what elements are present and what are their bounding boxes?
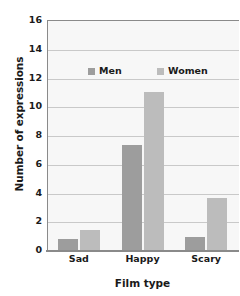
y-axis-tick-label: 12: [20, 73, 42, 83]
x-axis-title: Film type: [47, 277, 238, 289]
legend-label-men: Men: [99, 66, 122, 76]
x-axis-line: [46, 250, 239, 252]
y-axis-tick-label: 6: [20, 159, 42, 169]
chart-legend: Men Women: [47, 64, 238, 78]
bar-men-happy: [122, 145, 142, 250]
x-axis-tick-label: Sad: [69, 254, 89, 264]
y-axis-tick-label: 10: [20, 102, 42, 112]
legend-label-women: Women: [168, 66, 208, 76]
y-axis-tick-labels: 0246810121416: [20, 20, 42, 250]
legend-entry-men: Men: [88, 64, 122, 78]
bar-men-scary: [185, 237, 205, 250]
x-axis-tick-label: Scary: [191, 254, 221, 264]
bar-women-scary: [207, 198, 227, 250]
y-axis-tick-label: 2: [20, 217, 42, 227]
y-axis-tick-label: 4: [20, 188, 42, 198]
y-axis-tick-label: 0: [20, 245, 42, 255]
legend-swatch-men-icon: [88, 68, 95, 75]
bar-women-happy: [144, 92, 164, 250]
legend-swatch-women-icon: [157, 68, 164, 75]
x-axis-tick-labels: SadHappyScary: [47, 254, 238, 268]
y-axis-tick-label: 16: [20, 15, 42, 25]
bar-chart: Number of expressions 0246810121416 Men …: [0, 0, 240, 296]
bar-women-sad: [80, 230, 100, 250]
legend-entry-women: Women: [157, 64, 208, 78]
y-axis-tick-label: 14: [20, 44, 42, 54]
bar-men-sad: [58, 239, 78, 251]
y-axis-tick-label: 8: [20, 130, 42, 140]
x-axis-tick-label: Happy: [125, 254, 159, 264]
bars-layer: [47, 20, 238, 250]
